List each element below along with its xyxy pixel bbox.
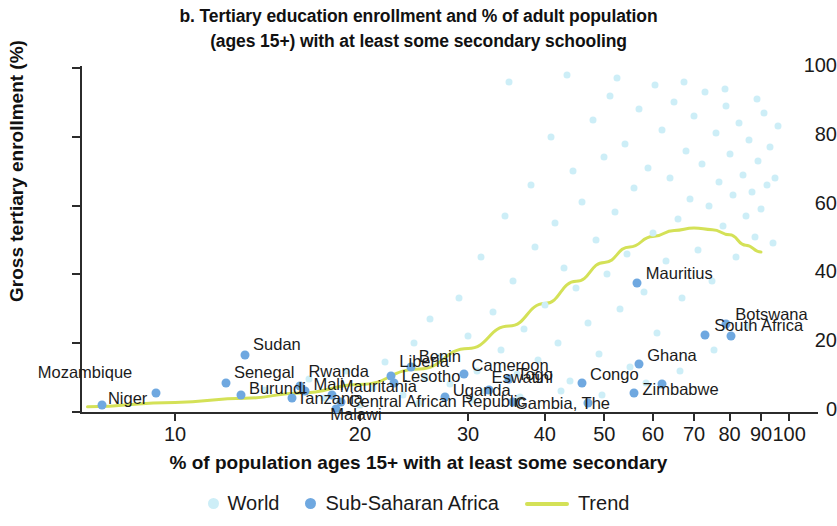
x-tick-label: 80 <box>718 423 740 446</box>
y-tick-mark <box>72 411 80 413</box>
ssa-data-point <box>578 378 587 387</box>
ssa-data-point <box>701 330 710 339</box>
ssa-data-point <box>241 351 250 360</box>
world-data-point <box>616 305 623 312</box>
world-data-point <box>541 302 548 309</box>
world-data-point <box>745 137 752 144</box>
legend-item-ssa: Sub-Saharan Africa <box>305 492 498 515</box>
chart-title-line2: (ages 15+) with at least some secondary … <box>0 29 837 54</box>
y-axis-label: Gross tertiary enrollment (%) <box>6 6 28 336</box>
x-tick-mark <box>467 412 469 421</box>
world-dot-icon <box>208 498 219 509</box>
country-label: Congo <box>590 366 639 383</box>
x-tick-label: 20 <box>349 423 371 446</box>
ssa-data-point <box>459 370 468 379</box>
ssa-data-point <box>151 389 160 398</box>
x-tick-label: 40 <box>534 423 556 446</box>
world-data-point <box>736 120 743 127</box>
country-label: Botswana <box>735 306 807 323</box>
x-tick-mark <box>788 412 790 421</box>
world-data-point <box>694 247 701 254</box>
legend-item-trend: Trend <box>525 492 630 515</box>
world-data-point <box>561 264 568 271</box>
world-data-point <box>595 350 602 357</box>
world-data-point <box>509 278 516 285</box>
y-tick-mark <box>72 342 80 344</box>
world-data-point <box>755 157 762 164</box>
world-data-point <box>698 161 705 168</box>
world-data-point <box>772 175 779 182</box>
legend-item-world: World <box>208 492 280 515</box>
ssa-data-point <box>97 401 106 410</box>
world-data-point <box>614 75 621 82</box>
world-data-point <box>652 82 659 89</box>
world-data-point <box>603 271 610 278</box>
y-tick-mark <box>72 273 80 275</box>
world-data-point <box>748 188 755 195</box>
chart-title: b. Tertiary education enrollment and % o… <box>0 4 837 54</box>
country-label: Sudan <box>253 336 301 353</box>
x-axis-label: % of population ages 15+ with at least s… <box>0 452 837 474</box>
ssa-data-point <box>221 379 230 388</box>
world-data-point <box>636 106 643 113</box>
x-tick-mark <box>693 412 695 421</box>
world-data-point <box>567 378 574 385</box>
chart-title-line1: b. Tertiary education enrollment and % o… <box>179 6 657 26</box>
ssa-data-point <box>632 279 641 288</box>
world-data-point <box>719 223 726 230</box>
world-data-point <box>758 206 765 213</box>
country-label: Malawi <box>330 406 381 423</box>
world-data-point <box>726 151 733 158</box>
country-label: Ghana <box>647 347 697 364</box>
y-tick-mark <box>72 67 80 69</box>
world-data-point <box>712 130 719 137</box>
plot-area: NigerMozambiqueSudanSenegalBurundiRwanda… <box>80 68 817 412</box>
country-label: Gambia, The <box>515 395 610 412</box>
ssa-data-point <box>630 389 639 398</box>
world-data-point <box>548 133 555 140</box>
world-data-point <box>498 347 505 354</box>
x-tick-mark <box>760 412 762 421</box>
world-data-point <box>590 116 597 123</box>
world-data-point <box>478 254 485 261</box>
legend-label-world: World <box>228 492 280 515</box>
world-data-point <box>760 109 767 116</box>
world-data-point <box>681 78 688 85</box>
country-label: Benin <box>419 348 461 365</box>
legend-label-ssa: Sub-Saharan Africa <box>325 492 498 515</box>
x-tick-label: 90 <box>750 423 772 446</box>
world-data-point <box>593 237 600 244</box>
legend-label-trend: Trend <box>578 492 630 515</box>
world-data-point <box>606 92 613 99</box>
world-data-point <box>573 285 580 292</box>
x-tick-mark <box>652 412 654 421</box>
world-data-point <box>564 71 571 78</box>
world-data-point <box>528 181 535 188</box>
world-data-point <box>752 233 759 240</box>
x-tick-label: 60 <box>642 423 664 446</box>
world-data-point <box>677 367 684 374</box>
chart-figure: b. Tertiary education enrollment and % o… <box>0 0 837 526</box>
y-tick-mark <box>72 205 80 207</box>
world-data-point <box>691 113 698 120</box>
world-data-point <box>702 89 709 96</box>
world-data-point <box>729 192 736 199</box>
world-data-point <box>554 340 561 347</box>
world-data-point <box>640 288 647 295</box>
world-data-point <box>579 199 586 206</box>
world-data-point <box>645 164 652 171</box>
world-data-point <box>601 154 608 161</box>
world-data-point <box>426 316 433 323</box>
x-tick-mark <box>174 412 176 421</box>
x-tick-mark <box>603 412 605 421</box>
country-label: Mauritius <box>646 265 713 282</box>
world-data-point <box>679 295 686 302</box>
world-data-point <box>621 140 628 147</box>
x-tick-label: 30 <box>457 423 479 446</box>
world-data-point <box>733 254 740 261</box>
x-tick-mark <box>729 412 731 421</box>
x-tick-label: 10 <box>164 423 186 446</box>
x-tick-label: 100 <box>772 423 805 446</box>
y-tick-mark <box>72 136 80 138</box>
world-data-point <box>711 347 718 354</box>
